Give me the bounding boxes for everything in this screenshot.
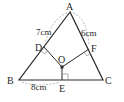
label-d: D [35, 42, 42, 53]
label-c: C [105, 75, 112, 86]
label-b: B [7, 75, 14, 86]
triangle-diagram: A B C D E F O 7cm 6cm 8cm [0, 0, 124, 102]
label-o: O [58, 54, 65, 65]
label-f: F [91, 43, 97, 54]
right-angle-mark-e [62, 74, 68, 80]
segment-of [62, 49, 89, 67]
point-o [61, 66, 64, 69]
label-e: E [59, 83, 65, 94]
label-a: A [66, 1, 74, 12]
measure-af: 6cm [81, 28, 97, 38]
measure-ad: 7cm [36, 27, 52, 37]
measure-be: 8cm [31, 82, 47, 92]
